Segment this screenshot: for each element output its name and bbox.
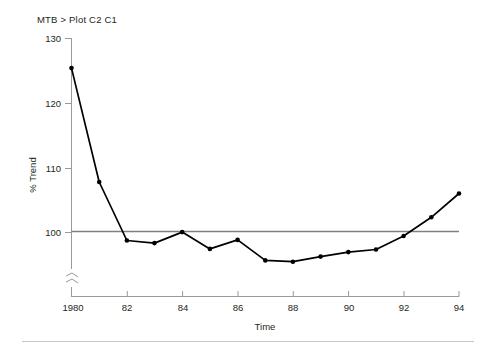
chart-page: MTB > Plot C2 C1 130 120 110 100 % Trend [0, 0, 488, 354]
data-point-1991 [374, 247, 379, 252]
data-point-1992 [401, 234, 406, 239]
data-point-1981 [97, 180, 102, 185]
data-point-1988 [291, 259, 296, 264]
trend-series-line [72, 68, 460, 262]
data-point-1984 [180, 230, 185, 235]
data-point-1980 [69, 66, 74, 71]
x-axis-title: Time [255, 321, 276, 332]
data-point-1987 [263, 258, 268, 263]
x-tick-label-94: 94 [454, 302, 465, 313]
data-point-1986 [235, 238, 240, 243]
x-tick-label-1980: 1980 [62, 302, 83, 313]
y-tick-label-100: 100 [45, 227, 61, 238]
x-axis-ticks [72, 291, 460, 297]
x-tick-label-92: 92 [399, 302, 410, 313]
data-point-1985 [208, 247, 213, 252]
footer-divider [22, 341, 474, 342]
x-tick-label-88: 88 [288, 302, 299, 313]
data-point-1994 [457, 191, 462, 196]
trend-line-chart: 130 120 110 100 % Trend 1980 82 84 86 88… [0, 0, 488, 354]
data-point-1993 [429, 215, 434, 220]
y-tick-label-110: 110 [46, 163, 61, 174]
trend-series-markers [69, 66, 461, 264]
y-axis-break-icon [66, 273, 78, 283]
data-point-1990 [346, 250, 351, 255]
data-point-1983 [152, 241, 157, 246]
x-tick-label-90: 90 [344, 302, 355, 313]
data-point-1982 [125, 238, 130, 243]
y-tick-label-130: 130 [45, 33, 61, 44]
y-axis-title: % Trend [27, 157, 38, 192]
x-tick-label-84: 84 [178, 302, 189, 313]
y-tick-label-120: 120 [45, 98, 61, 109]
x-tick-label-82: 82 [122, 302, 133, 313]
x-tick-label-86: 86 [233, 302, 244, 313]
data-point-1989 [318, 254, 323, 259]
